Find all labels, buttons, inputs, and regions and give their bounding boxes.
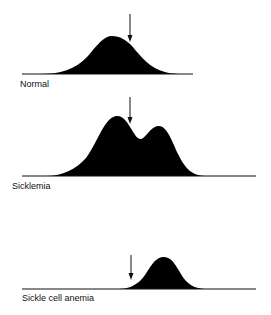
distribution-diagram	[0, 0, 271, 315]
label-normal: Normal	[20, 79, 49, 89]
normal-distribution-curve	[40, 36, 185, 74]
sicklemia-arrow-icon	[128, 97, 133, 124]
sicklemia-distribution-curve	[45, 116, 205, 176]
label-sickle-cell-anemia: Sickle cell anemia	[22, 293, 94, 303]
panel-sickle-cell-anemia	[22, 255, 256, 289]
normal-arrow-icon	[128, 14, 133, 42]
panel-normal	[22, 14, 193, 74]
panel-sicklemia	[22, 97, 256, 176]
label-sicklemia: Sicklemia	[12, 181, 51, 191]
sickle-cell-anemia-arrow-icon	[129, 255, 134, 280]
